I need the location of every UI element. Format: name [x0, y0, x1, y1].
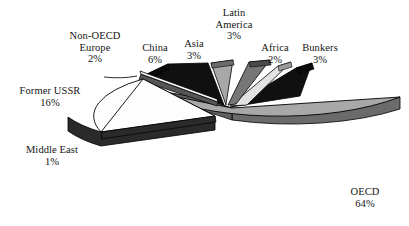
- label-china: China 6%: [133, 42, 177, 66]
- label-middle-east: Middle East 1%: [14, 144, 90, 168]
- label-africa: Africa 2%: [255, 42, 295, 66]
- label-china-name: China: [133, 42, 177, 54]
- label-latin-america-line2: America: [206, 19, 262, 31]
- label-former-ussr-name: Former USSR: [10, 85, 90, 97]
- label-former-ussr-percent: 16%: [10, 97, 90, 109]
- label-oecd-name: OECD: [341, 186, 389, 198]
- label-oecd-percent: 64%: [341, 198, 389, 210]
- pie-chart: Non-OECD Europe 2% China 6% Asia 3% Lati…: [0, 0, 409, 226]
- label-non-oecd-europe-line1: Non-OECD: [60, 30, 130, 42]
- label-asia-percent: 3%: [176, 50, 212, 62]
- label-africa-name: Africa: [255, 42, 295, 54]
- label-middle-east-percent: 1%: [14, 156, 90, 168]
- label-non-oecd-europe-line2: Europe: [60, 42, 130, 54]
- label-former-ussr: Former USSR 16%: [10, 85, 90, 109]
- label-latin-america: Latin America 3%: [206, 7, 262, 42]
- label-china-percent: 6%: [133, 54, 177, 66]
- leader-line-non-oecd-europe: [104, 76, 137, 78]
- label-africa-percent: 2%: [255, 54, 295, 66]
- label-oecd: OECD 64%: [341, 186, 389, 210]
- label-bunkers-percent: 3%: [293, 54, 347, 66]
- label-middle-east-name: Middle East: [14, 144, 90, 156]
- label-bunkers: Bunkers 3%: [293, 42, 347, 66]
- label-latin-america-percent: 3%: [206, 30, 262, 42]
- label-non-oecd-europe: Non-OECD Europe 2%: [60, 30, 130, 65]
- label-bunkers-name: Bunkers: [293, 42, 347, 54]
- label-non-oecd-europe-percent: 2%: [60, 53, 130, 65]
- label-latin-america-line1: Latin: [206, 7, 262, 19]
